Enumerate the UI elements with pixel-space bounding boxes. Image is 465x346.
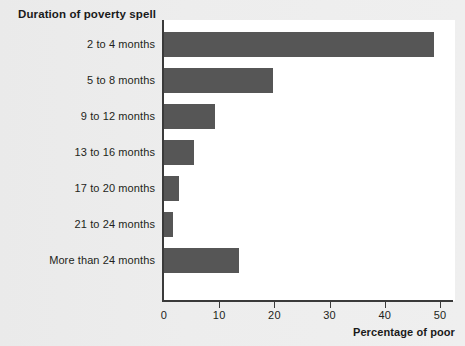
bar bbox=[164, 248, 239, 273]
x-tick-label: 0 bbox=[144, 309, 184, 321]
x-tick-label: 10 bbox=[199, 309, 239, 321]
x-tick-mark bbox=[440, 302, 441, 308]
x-tick-label: 20 bbox=[254, 309, 294, 321]
category-label: 9 to 12 months bbox=[0, 110, 155, 122]
category-label: 21 to 24 months bbox=[0, 218, 155, 230]
category-label: 2 to 4 months bbox=[0, 38, 155, 50]
x-tick-label: 30 bbox=[310, 309, 350, 321]
x-tick-mark bbox=[385, 302, 386, 308]
bar bbox=[164, 140, 194, 165]
bar bbox=[164, 104, 215, 129]
chart-title: Duration of poverty spell bbox=[8, 8, 156, 20]
x-axis-line bbox=[162, 300, 453, 302]
x-tick-mark bbox=[219, 302, 220, 308]
category-label: 5 to 8 months bbox=[0, 74, 155, 86]
x-tick-mark bbox=[274, 302, 275, 308]
bar bbox=[164, 32, 434, 57]
x-tick-mark bbox=[330, 302, 331, 308]
category-label: 17 to 20 months bbox=[0, 182, 155, 194]
category-label: More than 24 months bbox=[0, 254, 155, 266]
x-axis-title: Percentage of poor bbox=[353, 326, 455, 338]
x-tick-label: 40 bbox=[365, 309, 405, 321]
x-tick-label: 50 bbox=[420, 309, 460, 321]
chart-page: Duration of poverty spell 2 to 4 months5… bbox=[0, 0, 465, 346]
bar bbox=[164, 176, 179, 201]
category-label: 13 to 16 months bbox=[0, 146, 155, 158]
bar bbox=[164, 68, 273, 93]
bar bbox=[164, 212, 173, 237]
